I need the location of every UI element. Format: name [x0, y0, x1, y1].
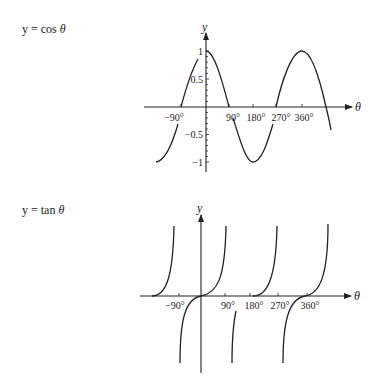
cos-ytick-0.5: 0.5: [191, 74, 204, 85]
tan-branch-1: [152, 226, 174, 296]
tan-x-axis-label: θ: [354, 289, 360, 303]
cos-graph: y θ: [144, 20, 361, 172]
cos-y-axis-label: y: [201, 20, 208, 34]
cos-tick-90: 90°: [226, 112, 240, 123]
cos-tick-270: 270°: [272, 112, 291, 123]
tan-branch-2: [180, 226, 226, 363]
tan-branch-3-upper: [253, 226, 277, 296]
tan-tick-360: 360°: [301, 300, 320, 311]
tan-tick-neg90: −90°: [165, 300, 185, 311]
cos-ytick-1: 1: [198, 46, 203, 57]
tan-graph: y θ −90° 90° 180° 270° 360°: [140, 201, 360, 373]
cos-ytick-neg1: −1: [192, 157, 203, 168]
cos-ytick-neg0.5: −0.5: [185, 129, 203, 140]
cos-curve-trough: [233, 118, 273, 162]
tan-y-axis-label: y: [196, 201, 203, 215]
tan-branch-4: [283, 224, 328, 363]
tan-tick-270: 270°: [271, 300, 290, 311]
tan-tick-90: 90°: [221, 300, 235, 311]
tan-branch-3-lower: [232, 311, 236, 363]
cos-curve-left-lower: [156, 124, 178, 162]
tan-tick-180: 180°: [245, 300, 264, 311]
cos-curve-main-peak: [206, 51, 229, 107]
cos-tick-360: 360°: [295, 112, 314, 123]
cos-tick-180: 180°: [247, 112, 266, 123]
cos-x-axis-label: θ: [355, 100, 361, 114]
trig-graphs: y θ: [0, 0, 384, 383]
cos-tick-neg90: −90°: [164, 112, 184, 123]
